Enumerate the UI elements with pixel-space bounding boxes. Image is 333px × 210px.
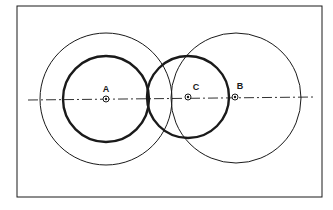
diagram-canvas: A C B	[0, 0, 333, 210]
label-b: B	[237, 81, 244, 91]
point-b-marker	[232, 94, 238, 100]
label-a: A	[103, 84, 110, 94]
point-c-marker	[185, 94, 191, 100]
label-c: C	[193, 82, 200, 92]
point-a-marker	[103, 96, 109, 102]
